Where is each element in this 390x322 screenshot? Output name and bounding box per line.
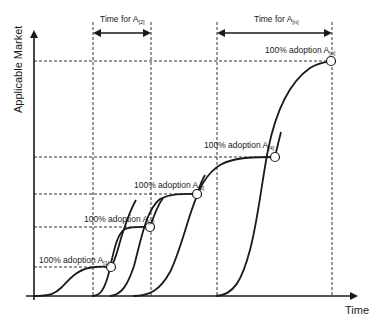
time-span-label-a2: Time for A[2] — [100, 14, 145, 25]
adoption-label-a4: 100% adoption A[4] — [204, 140, 275, 151]
point-an — [327, 57, 336, 66]
time-span-label-an: Time for A[n] — [254, 14, 299, 25]
curve-an — [216, 61, 331, 296]
adoption-diagram: Time for A[2] Time for A[n] 100% adoptio… — [0, 0, 390, 322]
adoption-label-a3: 100% adoption A[3] — [134, 180, 205, 191]
adoption-label-an: 100% adoption A[n] — [265, 45, 336, 56]
curve-a1-extension — [111, 200, 136, 267]
curve-a1 — [34, 267, 111, 296]
point-a4 — [271, 153, 280, 162]
adoption-label-a1: 100% adoption A[1] — [39, 255, 110, 266]
vertical-reference-lines — [93, 22, 332, 296]
y-axis-label: Applicable Market — [12, 26, 24, 113]
curve-a3 — [110, 194, 197, 296]
adoption-label-a2: 100% adoption A[2] — [84, 214, 155, 225]
x-axis-label: Time — [345, 304, 369, 316]
